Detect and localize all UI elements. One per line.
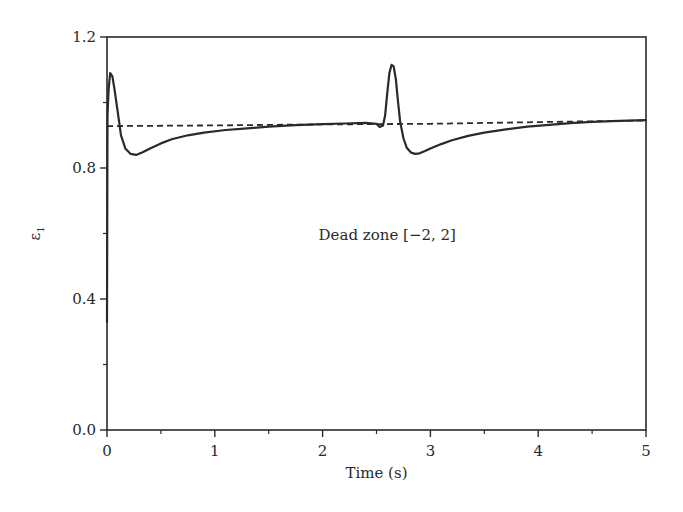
annotation-text: Dead zone [−2, 2] — [319, 226, 456, 244]
y-axis-ticks: 0.00.40.81.2 — [72, 28, 107, 439]
series-lines — [107, 65, 646, 322]
chart: 012345 0.00.40.81.2 Time (s) ε1 Dead zon… — [0, 0, 683, 512]
series-line-actual — [107, 65, 646, 322]
y-axis-label: ε1 — [26, 226, 46, 240]
x-tick-label: 1 — [210, 442, 220, 460]
x-axis-label: Time (s) — [345, 464, 407, 482]
x-tick-label: 3 — [426, 442, 436, 460]
x-tick-label: 5 — [641, 442, 651, 460]
y-tick-label: 0.0 — [72, 421, 96, 439]
y-tick-label: 0.8 — [72, 159, 96, 177]
x-tick-label: 0 — [102, 442, 112, 460]
x-axis-ticks: 012345 — [102, 430, 651, 460]
y-tick-label: 0.4 — [72, 290, 96, 308]
x-tick-label: 2 — [318, 442, 328, 460]
annotations: Dead zone [−2, 2] — [319, 226, 456, 244]
y-axis-label-subscript: 1 — [35, 226, 46, 232]
x-tick-label: 4 — [533, 442, 543, 460]
y-tick-label: 1.2 — [72, 28, 96, 46]
